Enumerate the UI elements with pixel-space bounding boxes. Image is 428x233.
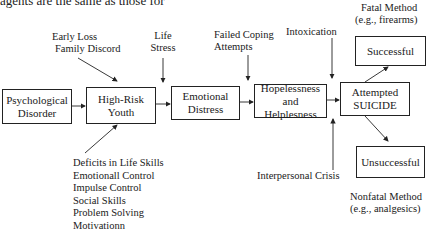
label-line: Stress bbox=[148, 42, 178, 54]
deficit-item: Motivationn bbox=[73, 220, 164, 233]
label-line: (e.g., analgesics) bbox=[350, 203, 422, 215]
label-line: Family Discord bbox=[52, 43, 121, 55]
psychological-disorder-box: PsychologicalDisorder bbox=[2, 89, 72, 124]
label-line: Fatal Method bbox=[355, 2, 417, 14]
box-text: Emotional bbox=[183, 90, 229, 103]
box-text: and Helplesness bbox=[255, 95, 326, 121]
nonfatal-method-label: Nonfatal Method (e.g., analgesics) bbox=[350, 191, 422, 215]
attempted-suicide-box: AttemptedSUICIDE bbox=[340, 82, 410, 116]
fatal-method-label: Fatal Method (e.g., firearms) bbox=[355, 2, 417, 26]
emotional-distress-box: EmotionalDistress bbox=[171, 86, 240, 120]
early-loss-label: Early Loss Family Discord bbox=[52, 31, 121, 55]
life-skills-deficits-list: Deficits in Life Skills Emotionall Contr… bbox=[73, 157, 164, 232]
deficit-item: Problem Solving bbox=[73, 207, 164, 220]
successful-box: Successful bbox=[355, 36, 426, 66]
box-text: Distress bbox=[183, 103, 229, 116]
life-stress-label: Life Stress bbox=[148, 30, 178, 54]
box-text: Youth bbox=[98, 106, 144, 119]
unsuccessful-box: Unsuccessful bbox=[356, 146, 425, 178]
intoxication-label: Intoxication bbox=[286, 26, 337, 38]
box-text: Disorder bbox=[6, 107, 68, 120]
label-line: Attempts bbox=[214, 41, 274, 53]
hopelessness-box: Hopelessnessand Helplesness bbox=[254, 84, 327, 118]
deficit-item: Deficits in Life Skills bbox=[73, 157, 164, 170]
label-line: Early Loss bbox=[52, 31, 121, 43]
deficit-item: Impulse Control bbox=[73, 182, 164, 195]
label-line: (e.g., firearms) bbox=[355, 14, 417, 26]
box-text: High-Risk bbox=[98, 93, 144, 106]
deficit-item: Emotionall Control bbox=[73, 170, 164, 183]
label-line: Life bbox=[148, 30, 178, 42]
label-line: Nonfatal Method bbox=[350, 191, 422, 203]
box-text: Attempted bbox=[352, 86, 398, 99]
failed-coping-label: Failed Coping Attempts bbox=[214, 29, 274, 53]
box-text: SUICIDE bbox=[352, 99, 398, 112]
high-risk-youth-box: High-RiskYouth bbox=[86, 87, 156, 124]
interpersonal-crisis-label: Interpersonal Crisis bbox=[257, 170, 340, 182]
box-text: Unsuccessful bbox=[361, 156, 420, 169]
label-line: Failed Coping bbox=[214, 29, 274, 41]
box-text: Successful bbox=[367, 45, 414, 58]
box-text: Psychological bbox=[6, 94, 68, 107]
box-text: Hopelessness bbox=[255, 82, 326, 95]
deficit-item: Social Skills bbox=[73, 195, 164, 208]
